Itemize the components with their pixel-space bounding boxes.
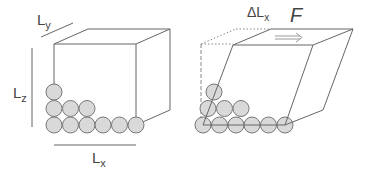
- lx-label: Lx: [92, 149, 106, 169]
- shear-diagram: Ly Lz Lx ΔLx F: [0, 0, 366, 174]
- force-label: F: [290, 4, 304, 26]
- left-particles: [46, 84, 144, 133]
- lz-label: Lz: [13, 84, 27, 104]
- force-arrow-icon: [275, 33, 302, 42]
- ly-label: Ly: [37, 11, 51, 31]
- delta-lx-label: ΔLx: [247, 4, 269, 23]
